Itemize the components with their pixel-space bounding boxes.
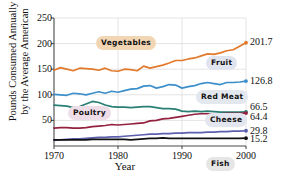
series-endpoint-fruit: [244, 79, 248, 83]
series-endpoint-vegetables: [244, 41, 248, 45]
series-endpoint-fish: [244, 136, 248, 140]
x-axis-tick-label: 1980: [96, 150, 140, 161]
y-axis-tick-value: 100: [22, 89, 52, 100]
series-end-value-fish: 15.2: [250, 133, 268, 144]
y-axis-tick-value: 150: [22, 63, 52, 74]
y-axis-tick-value: 50: [22, 114, 52, 125]
chart-container: Pounds Consumed Annually by the Average …: [0, 0, 300, 181]
x-axis-tick-label: 1970: [32, 150, 76, 161]
callout-red-meat: Red Meat: [196, 90, 248, 104]
callout-vegetables: Vegetables: [96, 36, 156, 50]
series-end-value-poultry: 64.4: [250, 111, 268, 122]
callout-fish: Fish: [206, 157, 235, 171]
series-end-value-fruit: 126.8: [250, 75, 273, 86]
callout-fruit: Fruit: [206, 56, 237, 70]
series-endpoint-cheese: [244, 129, 248, 133]
y-axis-tick-value: 250: [22, 12, 52, 23]
series-end-value-vegetables: 201.7: [250, 36, 273, 47]
y-axis-tick-value: 200: [22, 38, 52, 49]
callout-cheese: Cheese: [205, 113, 247, 127]
callout-poultry: Poultry: [68, 106, 111, 120]
x-axis-tick-label: 1990: [160, 150, 204, 161]
